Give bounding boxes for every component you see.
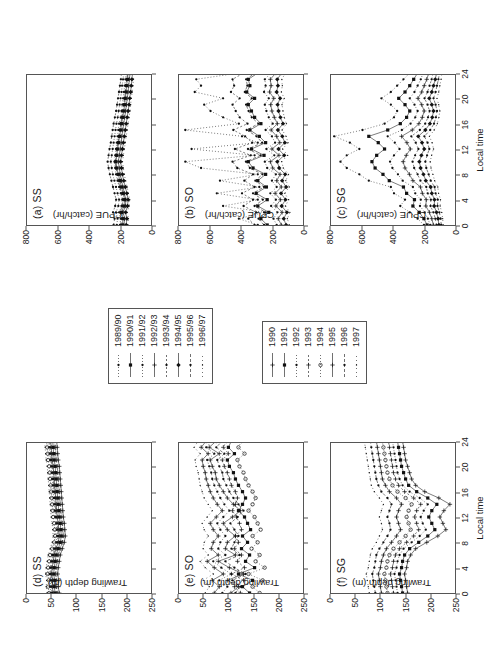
legend-label: 1996 xyxy=(340,327,349,347)
legend-item: 1997 xyxy=(351,327,362,378)
legend-item: 1992 xyxy=(291,327,302,378)
legend-label: 1991/92 xyxy=(138,314,147,347)
legend-label: 1995/96 xyxy=(186,314,195,347)
x-tick-mark xyxy=(304,492,308,493)
legend-marker-icon xyxy=(340,352,349,378)
plot-area-a: (a) SS xyxy=(26,74,152,226)
legend-item: 1991 xyxy=(279,327,290,378)
legend-marker-icon xyxy=(150,352,159,378)
x-tick-mark xyxy=(304,518,308,519)
plot-area-d: (d) SS xyxy=(26,442,152,594)
x-tick-mark xyxy=(304,200,308,201)
x-tick-mark xyxy=(152,568,156,569)
x-tick-mark xyxy=(152,226,156,227)
legend-label: 1993/94 xyxy=(162,314,171,347)
x-tick-mark xyxy=(304,543,308,544)
figure-canvas: (d) SS050100150200250Trawling depth (m)(… xyxy=(0,0,502,656)
x-tick-mark xyxy=(456,124,460,125)
legend-item: 1993 xyxy=(303,327,314,378)
y-tick-mark xyxy=(405,594,406,598)
legend-years: 19901991199219931994199519961997 xyxy=(262,321,367,384)
y-tick-mark xyxy=(26,226,27,230)
x-tick-mark xyxy=(456,150,460,151)
plot-area-b: (b) SO xyxy=(178,74,304,226)
y-tick-mark xyxy=(304,594,305,598)
y-tick-mark xyxy=(101,594,102,598)
x-tick-mark xyxy=(304,594,308,595)
legend-label: 1996/97 xyxy=(198,314,207,347)
legend-item: 1993/94 xyxy=(161,314,172,378)
legend-marker-icon xyxy=(174,352,183,378)
legend-marker-icon xyxy=(328,352,337,378)
y-tick-mark xyxy=(355,594,356,598)
x-tick-mark xyxy=(456,543,460,544)
legend-marker-icon xyxy=(280,352,289,378)
y-tick-mark xyxy=(241,226,242,230)
y-axis-label: CPUE (catch/hr) xyxy=(165,210,315,221)
x-tick-mark xyxy=(152,175,156,176)
x-tick-mark xyxy=(152,518,156,519)
x-axis-label: Local time xyxy=(474,496,485,539)
legend-marker-icon xyxy=(138,352,147,378)
x-tick-mark xyxy=(304,74,308,75)
legend-label: 1990/91 xyxy=(126,314,135,347)
x-tick-mark xyxy=(456,175,460,176)
y-axis-label: CPUE (catch/hr) xyxy=(13,210,163,221)
legend-item: 1996/97 xyxy=(197,314,208,378)
y-tick-mark xyxy=(304,226,305,230)
legend-item: 1994/95 xyxy=(173,314,184,378)
legend-label: 1993 xyxy=(304,327,313,347)
y-tick-mark xyxy=(76,594,77,598)
legend-item: 1995 xyxy=(327,327,338,378)
legend-marker-icon xyxy=(162,352,171,378)
x-tick-mark xyxy=(456,200,460,201)
plot-area-e: (e) SO xyxy=(178,442,304,594)
y-tick-mark xyxy=(89,226,90,230)
x-tick-mark xyxy=(304,568,308,569)
x-tick-mark xyxy=(152,200,156,201)
y-tick-mark xyxy=(57,226,58,230)
legend-marker-icon xyxy=(316,352,325,378)
legend-label: 1989/90 xyxy=(114,314,123,347)
legend-item: 1995/96 xyxy=(185,314,196,378)
panel-c: (c) SG020040060080004812162024Local time… xyxy=(330,74,456,226)
legend-label: 1995 xyxy=(328,327,337,347)
y-tick-mark xyxy=(330,226,331,230)
legend-item: 1991/92 xyxy=(137,314,148,378)
y-axis-label: Trawling depth (m) xyxy=(317,578,467,589)
panel-e: (e) SO050100150200250Trawling depth (m) xyxy=(178,442,304,594)
y-tick-mark xyxy=(430,594,431,598)
x-tick-mark xyxy=(152,543,156,544)
x-tick-mark xyxy=(152,124,156,125)
y-tick-mark xyxy=(253,594,254,598)
legend-marker-icon xyxy=(198,352,207,378)
x-tick-mark xyxy=(456,442,460,443)
y-tick-mark xyxy=(278,594,279,598)
y-axis-label: Trawling depth (m) xyxy=(165,578,315,589)
plot-area-c: (c) SG xyxy=(330,74,456,226)
y-tick-mark xyxy=(361,226,362,230)
x-tick-mark xyxy=(152,492,156,493)
y-tick-mark xyxy=(152,594,153,598)
y-tick-mark xyxy=(51,594,52,598)
y-tick-mark xyxy=(330,594,331,598)
legend-item: 1989/90 xyxy=(113,314,124,378)
panel-f: (f) SG05010015020025004812162024Local ti… xyxy=(330,442,456,594)
legend-label: 1994 xyxy=(316,327,325,347)
legend-seasons: 1989/901990/911991/921992/931993/941994/… xyxy=(108,308,213,384)
panel-a: (a) SS0200400600800CPUE (catch/hr) xyxy=(26,74,152,226)
x-tick-mark xyxy=(152,150,156,151)
y-tick-mark xyxy=(228,594,229,598)
y-axis-label: CPUE (catch/hr) xyxy=(317,210,467,221)
y-tick-mark xyxy=(152,226,153,230)
y-tick-mark xyxy=(120,226,121,230)
legend-item: 1994 xyxy=(315,327,326,378)
legend-item: 1992/93 xyxy=(149,314,160,378)
plot-area-f: (f) SG xyxy=(330,442,456,594)
x-tick-mark xyxy=(152,594,156,595)
legend-item: 1990/91 xyxy=(125,314,136,378)
legend-marker-icon xyxy=(352,352,361,378)
x-tick-mark xyxy=(456,594,460,595)
y-tick-mark xyxy=(203,594,204,598)
x-tick-mark xyxy=(456,518,460,519)
